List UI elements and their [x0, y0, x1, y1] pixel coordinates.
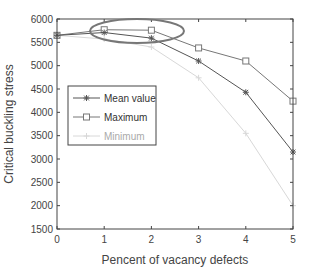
x-tick-label: 5 — [290, 234, 296, 245]
legend-label: Minimum — [104, 131, 145, 142]
legend-label: Maximum — [104, 112, 147, 123]
y-tick-label: 5000 — [31, 60, 54, 71]
y-tick-label: 2500 — [31, 177, 54, 188]
asterisk-marker-icon — [148, 35, 154, 41]
y-tick-label: 2000 — [31, 200, 54, 211]
y-tick-label: 5500 — [31, 37, 54, 48]
y-tick-label: 3500 — [31, 130, 54, 141]
y-tick-label: 4000 — [31, 107, 54, 118]
legend-label: Mean value — [104, 93, 156, 104]
x-tick-label: 1 — [101, 234, 107, 245]
y-axis-label: Critical buckling stress — [2, 64, 16, 183]
x-axis-label: Pencent of vacancy defects — [102, 253, 249, 267]
square-marker-icon — [84, 114, 90, 120]
y-tick-label: 4500 — [31, 84, 54, 95]
y-tick-label: 3000 — [31, 154, 54, 165]
y-tick-label: 6000 — [31, 14, 54, 25]
asterisk-marker-icon — [101, 30, 107, 36]
y-tick-label: 1500 — [31, 224, 54, 235]
asterisk-marker-icon — [243, 89, 249, 95]
x-tick-label: 3 — [196, 234, 202, 245]
x-tick-label: 4 — [243, 234, 249, 245]
square-marker-icon — [148, 27, 154, 33]
plus-marker-icon — [148, 44, 154, 50]
asterisk-marker-icon — [196, 58, 202, 64]
x-tick-label: 2 — [149, 234, 155, 245]
x-tick-label: 0 — [54, 234, 60, 245]
square-marker-icon — [196, 45, 202, 51]
asterisk-marker-icon — [84, 95, 90, 101]
legend: Mean valueMaximumMinimum — [68, 86, 156, 145]
square-marker-icon — [243, 58, 249, 64]
line-chart: 0123451500200025003000350040004500500055… — [0, 0, 311, 277]
